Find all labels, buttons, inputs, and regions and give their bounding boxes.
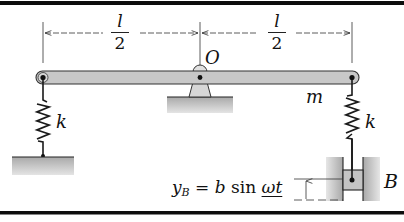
label-left-half-length: l 2: [110, 13, 130, 52]
label-left-spring-k: k: [56, 113, 67, 131]
diagram-figure: l 2 l 2 O m k k B yB = b sin ωt: [0, 0, 404, 222]
eq-arg: ωt: [262, 177, 283, 197]
beam-left-pin: [40, 75, 45, 80]
label-support-B: B: [384, 172, 398, 191]
eq-lhs-sub: B: [182, 186, 190, 199]
label-mass-m: m: [306, 88, 323, 106]
right-half-numerator: l: [267, 13, 287, 30]
pivot-pin-O: [198, 75, 203, 80]
left-ground: [12, 157, 74, 175]
top-rule: [0, 1, 404, 5]
eq-func: sin: [226, 177, 262, 197]
bottom-rule: [0, 211, 404, 215]
left-half-numerator: l: [110, 13, 130, 30]
label-right-half-length: l 2: [267, 13, 287, 52]
beam: [36, 71, 359, 84]
left-half-denominator: 2: [110, 35, 130, 52]
slider-pin: [350, 178, 355, 183]
displacement-equation: yB = b sin ωt: [172, 179, 282, 198]
label-pivot-O: O: [205, 49, 220, 67]
left-spring: [37, 80, 49, 158]
guide-wall-right: [363, 157, 380, 201]
eq-equals: =: [190, 177, 215, 197]
eq-lhs-var: y: [172, 177, 182, 197]
eq-coef: b: [215, 177, 226, 197]
label-right-spring-k: k: [365, 113, 376, 131]
pivot-ground: [167, 97, 233, 113]
right-half-denominator: 2: [267, 35, 287, 52]
beam-right-pin: [349, 75, 354, 80]
